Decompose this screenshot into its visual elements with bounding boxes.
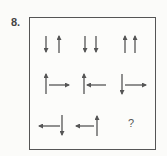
cell-r2c1-up-right-arrows [46,74,69,94]
arrow-grid [0,0,167,156]
missing-cell-question-mark: ? [128,117,134,129]
cell-r1c3-up-up-arrows [125,36,135,53]
cell-r1c2-down-down-arrows [85,36,96,52]
cell-r3c1-left-down-arrows [39,115,62,135]
cell-r2c2-up-left-arrows [84,74,106,94]
cell-r1c1-down-up-arrows [46,36,59,53]
cell-r3c2-left-up-arrows [76,116,97,136]
cell-r2c3-down-right-arrows [122,74,146,94]
